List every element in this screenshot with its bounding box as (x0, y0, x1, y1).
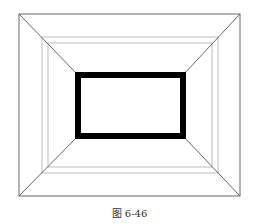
diagram-canvas (0, 0, 259, 224)
diagonal-top-right (183, 14, 240, 75)
diagonal-top-left (19, 14, 78, 75)
diagonal-bottom-left (19, 136, 78, 196)
diagonal-bottom-right (183, 136, 240, 196)
figure-caption: 图 6-46 (0, 205, 259, 220)
black-frame (78, 75, 183, 136)
